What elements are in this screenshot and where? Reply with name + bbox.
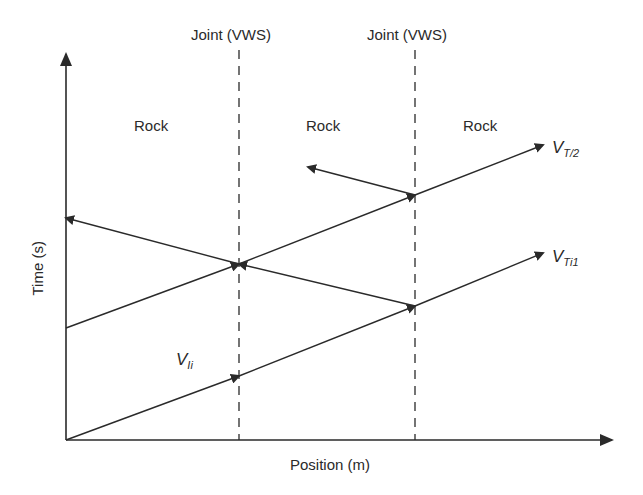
incident-wave-segment-1 (66, 376, 239, 440)
x-axis-label: Position (m) (290, 456, 370, 473)
joint-label-1: Joint (VWS) (191, 26, 271, 43)
wave-label-transmitted-1: VTi1 (552, 247, 579, 268)
second-wave-segment-1 (66, 264, 239, 328)
rock-label-2: Rock (306, 117, 340, 134)
reflected-wave-segment-1 (239, 264, 415, 306)
transmitted-wave-2 (415, 145, 543, 195)
second-wave-segment-2 (239, 195, 415, 264)
wave-label-incident-sub: Ii (187, 359, 193, 371)
reflected-wave-segment-2 (66, 218, 239, 264)
wave-label-transmitted-2: VT/2 (552, 138, 579, 159)
wave-label-t1-sub: Ti1 (563, 256, 578, 268)
wave-label-t2-main: V (552, 138, 563, 157)
y-axis-label: Time (s) (29, 246, 46, 296)
diagram-canvas (0, 0, 643, 495)
reflected-wave-upper (308, 167, 415, 195)
wave-label-incident: VIi (176, 350, 193, 371)
rock-label-3: Rock (463, 117, 497, 134)
wave-label-t2-sub: T/2 (563, 147, 579, 159)
joint-label-2: Joint (VWS) (367, 26, 447, 43)
wave-label-incident-main: V (176, 350, 187, 369)
rock-label-1: Rock (134, 117, 168, 134)
incident-wave-segment-2 (239, 306, 415, 376)
wave-label-t1-main: V (552, 247, 563, 266)
transmitted-wave-1 (415, 253, 543, 306)
